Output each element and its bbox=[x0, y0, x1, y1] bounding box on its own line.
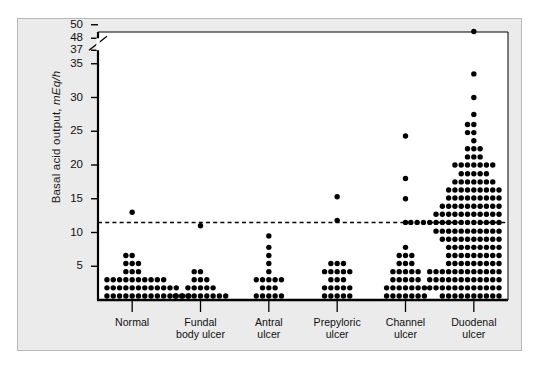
data-point bbox=[272, 277, 277, 282]
data-point bbox=[459, 261, 464, 266]
data-point bbox=[459, 179, 464, 184]
data-point bbox=[477, 285, 482, 290]
data-point bbox=[471, 203, 476, 208]
data-point bbox=[403, 253, 408, 258]
data-point bbox=[465, 253, 470, 258]
data-point bbox=[403, 133, 408, 138]
data-point bbox=[142, 285, 147, 290]
data-point bbox=[471, 112, 476, 117]
data-point bbox=[192, 293, 197, 298]
data-point bbox=[117, 277, 122, 282]
data-point bbox=[185, 293, 190, 298]
data-point bbox=[490, 179, 495, 184]
data-point bbox=[433, 285, 438, 290]
data-point bbox=[334, 261, 339, 266]
data-point bbox=[465, 245, 470, 250]
data-point bbox=[471, 285, 476, 290]
data-point bbox=[496, 293, 501, 298]
data-point bbox=[452, 203, 457, 208]
data-point bbox=[477, 187, 482, 192]
data-point bbox=[459, 212, 464, 217]
data-point bbox=[123, 253, 128, 258]
data-point bbox=[452, 237, 457, 242]
data-point bbox=[496, 237, 501, 242]
data-point bbox=[446, 220, 451, 225]
data-point bbox=[484, 237, 489, 242]
data-point bbox=[272, 293, 277, 298]
data-point bbox=[490, 277, 495, 282]
data-point bbox=[452, 293, 457, 298]
data-point bbox=[465, 261, 470, 266]
data-point bbox=[446, 253, 451, 258]
data-point bbox=[490, 203, 495, 208]
data-point bbox=[465, 228, 470, 233]
data-point bbox=[496, 187, 501, 192]
data-point bbox=[465, 285, 470, 290]
data-point bbox=[452, 245, 457, 250]
data-point bbox=[490, 285, 495, 290]
data-point bbox=[471, 95, 476, 100]
data-point bbox=[390, 285, 395, 290]
data-point bbox=[477, 228, 482, 233]
data-point bbox=[484, 220, 489, 225]
data-point bbox=[459, 171, 464, 176]
data-point bbox=[452, 220, 457, 225]
x-category-label: Duodenalulcer bbox=[426, 316, 522, 341]
data-point bbox=[452, 253, 457, 258]
data-point bbox=[484, 253, 489, 258]
data-point bbox=[459, 285, 464, 290]
data-point bbox=[440, 293, 445, 298]
data-point bbox=[204, 293, 209, 298]
data-point bbox=[471, 138, 476, 143]
data-point bbox=[397, 277, 402, 282]
data-point bbox=[136, 269, 141, 274]
data-point bbox=[484, 171, 489, 176]
data-point bbox=[136, 285, 141, 290]
data-point bbox=[440, 220, 445, 225]
data-point bbox=[496, 195, 501, 200]
data-point bbox=[260, 277, 265, 282]
data-point bbox=[459, 162, 464, 167]
data-point bbox=[390, 293, 395, 298]
data-point bbox=[465, 122, 470, 127]
data-point bbox=[422, 293, 427, 298]
data-point bbox=[452, 277, 457, 282]
data-point bbox=[129, 253, 134, 258]
data-point bbox=[254, 293, 259, 298]
data-point bbox=[496, 212, 501, 217]
data-point bbox=[459, 277, 464, 282]
data-point bbox=[471, 220, 476, 225]
data-point bbox=[490, 195, 495, 200]
data-point bbox=[440, 212, 445, 217]
data-point bbox=[471, 71, 476, 76]
data-point bbox=[155, 285, 160, 290]
data-point bbox=[192, 269, 197, 274]
data-point bbox=[155, 293, 160, 298]
data-point bbox=[471, 212, 476, 217]
data-point bbox=[465, 195, 470, 200]
data-point bbox=[384, 285, 389, 290]
data-point bbox=[465, 179, 470, 184]
data-point bbox=[409, 261, 414, 266]
data-point bbox=[185, 285, 190, 290]
data-point bbox=[484, 187, 489, 192]
data-point bbox=[104, 285, 109, 290]
data-point bbox=[328, 285, 333, 290]
data-point bbox=[484, 162, 489, 167]
data-point bbox=[465, 146, 470, 151]
data-point bbox=[465, 277, 470, 282]
data-point bbox=[390, 277, 395, 282]
data-point bbox=[452, 162, 457, 167]
data-point bbox=[465, 237, 470, 242]
data-point bbox=[459, 203, 464, 208]
data-point bbox=[477, 179, 482, 184]
data-point bbox=[217, 293, 222, 298]
data-point bbox=[471, 195, 476, 200]
data-point bbox=[409, 285, 414, 290]
y-tick-label: 35 bbox=[53, 57, 83, 69]
data-point bbox=[421, 220, 426, 225]
data-point bbox=[496, 277, 501, 282]
y-tick-label: 48 bbox=[53, 31, 83, 43]
data-point bbox=[471, 245, 476, 250]
data-point bbox=[123, 293, 128, 298]
